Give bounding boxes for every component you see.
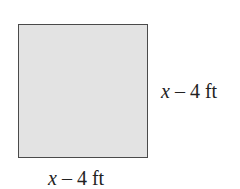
right-side-label: x – 4 ft: [161, 81, 217, 101]
square-shape: [18, 24, 148, 158]
bottom-side-variable: x: [48, 167, 57, 189]
bottom-side-label: x – 4 ft: [48, 168, 104, 188]
bottom-side-expression: – 4 ft: [57, 167, 104, 189]
right-side-expression: – 4 ft: [170, 80, 217, 102]
right-side-variable: x: [161, 80, 170, 102]
